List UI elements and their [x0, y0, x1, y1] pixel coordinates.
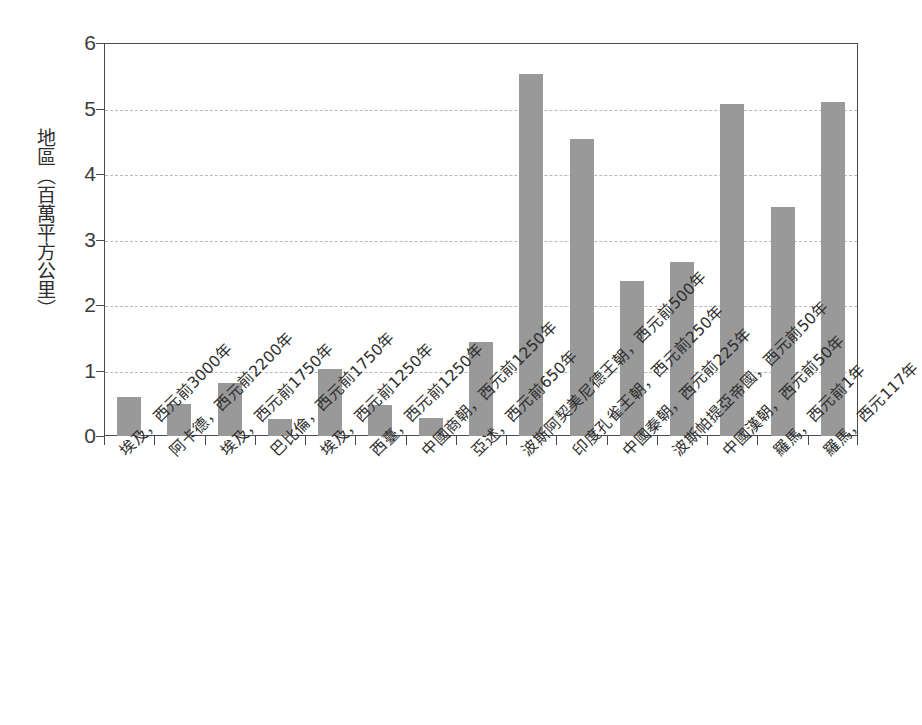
- y-axis-tick-mark: [96, 109, 104, 110]
- y-axis-tick-label: 2: [56, 294, 96, 315]
- x-axis-tick-mark: [305, 436, 306, 445]
- y-axis-tick-mark: [96, 240, 104, 241]
- x-axis-tick-mark: [808, 436, 809, 445]
- y-axis-tick-mark: [96, 43, 104, 44]
- bar: [318, 369, 342, 436]
- x-axis-tick-mark: [255, 436, 256, 445]
- y-axis-tick-label: 6: [56, 32, 96, 53]
- bar: [519, 74, 543, 436]
- x-axis-tick-mark: [104, 436, 105, 445]
- bar: [167, 404, 191, 436]
- x-axis-tick-mark: [707, 436, 708, 445]
- y-axis-tick-label: 0: [56, 425, 96, 446]
- y-axis-tick-label: 3: [56, 229, 96, 250]
- y-axis-tick-label: 1: [56, 360, 96, 381]
- y-axis-title: 地區（百萬平方公里）: [22, 128, 56, 318]
- x-axis-tick-mark: [657, 436, 658, 445]
- bar: [117, 397, 141, 436]
- x-axis-tick-mark: [456, 436, 457, 445]
- x-axis-tick-mark: [355, 436, 356, 445]
- bar: [771, 207, 795, 436]
- bar: [218, 383, 242, 436]
- y-axis-tick-mark: [96, 305, 104, 306]
- bar: [268, 419, 292, 436]
- y-axis-tick-label: 5: [56, 98, 96, 119]
- bar: [821, 102, 845, 436]
- bar: [670, 262, 694, 436]
- y-axis-tick-labels: 0123456: [52, 43, 96, 436]
- y-axis-tick-mark: [96, 174, 104, 175]
- x-axis-tick-mark: [205, 436, 206, 445]
- bar: [419, 418, 443, 436]
- x-axis-tick-mark: [857, 436, 858, 445]
- x-axis-tick-mark: [556, 436, 557, 445]
- x-axis-tick-mark: [406, 436, 407, 445]
- x-axis-tick-mark: [757, 436, 758, 445]
- bar: [720, 104, 744, 436]
- bar: [469, 342, 493, 436]
- y-axis-tick-mark: [96, 436, 104, 437]
- bar: [620, 281, 644, 436]
- x-axis-tick-mark: [154, 436, 155, 445]
- bar: [570, 139, 594, 436]
- x-axis-tick-mark: [607, 436, 608, 445]
- y-axis-tick-label: 4: [56, 163, 96, 184]
- bar: [368, 405, 392, 436]
- x-axis-tick-mark: [506, 436, 507, 445]
- y-axis-tick-mark: [96, 371, 104, 372]
- bar-series: [104, 43, 858, 436]
- x-axis-tick-marks: [104, 436, 858, 445]
